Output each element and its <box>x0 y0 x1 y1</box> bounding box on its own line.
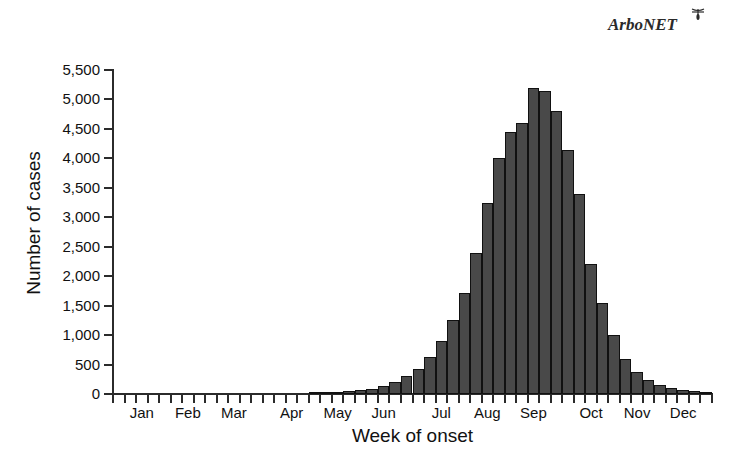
x-axis-tick <box>227 394 229 403</box>
x-axis-tick <box>665 394 667 403</box>
month-label-feb: Feb <box>175 404 201 421</box>
x-axis-tick <box>527 394 529 403</box>
bar <box>424 357 436 394</box>
bar <box>597 303 609 394</box>
arbonet-logo: ArboNET <box>606 6 714 40</box>
y-axis-tick <box>104 334 113 336</box>
bar <box>689 391 701 394</box>
y-axis-tick <box>104 128 113 130</box>
bar <box>677 390 689 394</box>
bar <box>343 391 355 394</box>
bar <box>459 293 471 394</box>
x-axis-tick <box>193 394 195 403</box>
x-axis-tick <box>538 394 540 403</box>
x-axis-tick <box>377 394 379 403</box>
x-axis-tick <box>158 394 160 403</box>
y-axis-tick-label: 5,500 <box>44 62 100 77</box>
x-axis-tick <box>446 394 448 403</box>
x-axis-tick <box>147 394 149 403</box>
bar <box>332 392 344 394</box>
x-axis-tick <box>250 394 252 403</box>
bar <box>309 392 321 394</box>
mosquito-icon <box>692 9 704 20</box>
bar <box>562 150 574 394</box>
month-label-apr: Apr <box>280 404 303 421</box>
x-axis-tick <box>423 394 425 403</box>
x-axis-tick <box>642 394 644 403</box>
case-histogram-chart: ArboNET 05001,0001,5002,0002,5003,0003,5… <box>0 0 730 460</box>
y-axis-tick-label: 3,500 <box>44 180 100 195</box>
bar <box>493 158 505 394</box>
bar <box>470 253 482 394</box>
x-axis-tick <box>216 394 218 403</box>
month-label-jul: Jul <box>432 404 451 421</box>
bar <box>574 194 586 394</box>
month-label-nov: Nov <box>624 404 651 421</box>
x-axis-tick <box>204 394 206 403</box>
x-axis-tick <box>181 394 183 403</box>
bar <box>528 88 540 394</box>
x-axis-tick <box>124 394 126 403</box>
bar <box>378 386 390 394</box>
y-axis-tick-label: 4,000 <box>44 150 100 165</box>
y-axis-tick-label: 2,500 <box>44 239 100 254</box>
y-axis-tick-label: 1,500 <box>44 298 100 313</box>
bar <box>631 372 643 394</box>
bar <box>551 111 563 394</box>
bar <box>666 388 678 394</box>
y-axis-tick-label: 3,000 <box>44 209 100 224</box>
svg-text:ArboNET: ArboNET <box>607 15 678 34</box>
bar <box>389 382 401 394</box>
x-axis-tick <box>492 394 494 403</box>
month-label-may: May <box>323 404 351 421</box>
x-axis-tick <box>135 394 137 403</box>
bar <box>355 390 367 394</box>
x-axis-tick <box>412 394 414 403</box>
x-axis-tick <box>561 394 563 403</box>
x-axis-tick <box>354 394 356 403</box>
month-label-sep: Sep <box>520 404 547 421</box>
y-axis-tick <box>104 98 113 100</box>
y-axis-tick <box>104 246 113 248</box>
x-axis-tick <box>435 394 437 403</box>
y-axis-tick <box>104 69 113 71</box>
x-axis-tick <box>573 394 575 403</box>
x-axis-tick <box>596 394 598 403</box>
x-axis-tick <box>388 394 390 403</box>
y-axis-tick <box>104 275 113 277</box>
x-axis-tick <box>481 394 483 403</box>
bar <box>516 123 528 394</box>
x-axis-tick <box>262 394 264 403</box>
x-axis-tick <box>630 394 632 403</box>
x-axis-tick <box>239 394 241 403</box>
bar <box>585 264 597 394</box>
bar <box>620 359 632 394</box>
bar <box>401 376 413 394</box>
bar <box>654 385 666 394</box>
x-axis-tick <box>458 394 460 403</box>
x-axis-tick <box>308 394 310 403</box>
y-axis-tick-label: 4,500 <box>44 121 100 136</box>
month-label-jan: Jan <box>130 404 154 421</box>
x-axis-tick <box>607 394 609 403</box>
x-axis-tick <box>688 394 690 403</box>
x-axis-tick <box>170 394 172 403</box>
y-axis-tick-label: 1,000 <box>44 327 100 342</box>
bar <box>539 91 551 394</box>
x-axis-tick <box>285 394 287 403</box>
bar <box>608 335 620 394</box>
bar <box>320 392 332 394</box>
y-axis-tick <box>104 305 113 307</box>
x-axis-tick <box>584 394 586 403</box>
x-axis-tick <box>319 394 321 403</box>
y-axis-tick <box>104 216 113 218</box>
x-axis-tick <box>273 394 275 403</box>
month-label-aug: Aug <box>474 404 501 421</box>
x-axis-tick <box>619 394 621 403</box>
bar <box>413 369 425 394</box>
y-axis-tick-label: 5,000 <box>44 91 100 106</box>
bar <box>436 341 448 394</box>
x-axis-tick <box>653 394 655 403</box>
x-axis-title: Week of onset <box>113 425 712 447</box>
bar <box>482 203 494 394</box>
